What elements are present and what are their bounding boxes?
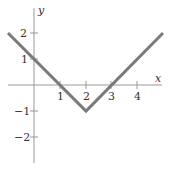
- y-axis-label: y: [37, 4, 45, 17]
- y-tick-label-2: 2: [20, 27, 27, 40]
- x-tick-label-3: 3: [108, 90, 115, 103]
- y-tick-label-m2: −2: [14, 131, 30, 144]
- x-tick-label-4: 4: [134, 90, 141, 103]
- x-tick-label-2: 2: [83, 90, 90, 103]
- x-tick-label-1: 1: [57, 90, 64, 103]
- y-tick-label-m1: −1: [14, 105, 30, 118]
- y-tick-label-1: 1: [21, 53, 28, 66]
- x-axis-label: x: [155, 72, 162, 85]
- graph: y x 1 2 3 4 2 1 −1 −2: [0, 0, 169, 169]
